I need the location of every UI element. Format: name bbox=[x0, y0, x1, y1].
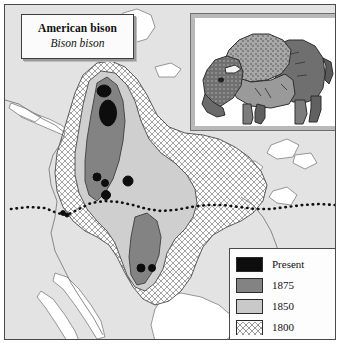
species-title-plaque: American bison Bison bison bbox=[21, 14, 134, 59]
legend-label-1850: 1850 bbox=[272, 301, 294, 312]
legend-label-present: Present bbox=[272, 259, 304, 270]
legend-swatch-1875 bbox=[236, 278, 263, 293]
legend-item: Present bbox=[236, 254, 336, 275]
legend-label-1875: 1875 bbox=[272, 280, 294, 291]
legend-swatch-1850 bbox=[236, 299, 263, 314]
legend-label-1800: 1800 bbox=[272, 322, 294, 333]
legend-swatch-1800 bbox=[236, 320, 263, 335]
crosshatch-icon bbox=[237, 322, 262, 335]
legend-swatch-present bbox=[236, 257, 263, 272]
map-legend: Present 1875 1850 bbox=[229, 248, 336, 340]
scientific-name-label: Bison bison bbox=[51, 36, 105, 51]
bison-illustration-frame bbox=[191, 14, 336, 130]
american-bison-icon bbox=[195, 18, 336, 126]
legend-item: 1850 bbox=[236, 296, 336, 317]
legend-item: 1875 bbox=[236, 275, 336, 296]
figure-frame: American bison Bison bison bbox=[4, 4, 336, 340]
species-range-figure: American bison Bison bison bbox=[0, 0, 345, 348]
legend-item: 1800 bbox=[236, 317, 336, 338]
common-name-label: American bison bbox=[38, 22, 117, 35]
